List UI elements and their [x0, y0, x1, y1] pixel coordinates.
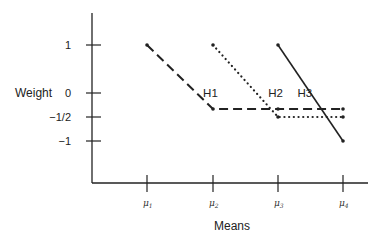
data-point: [145, 43, 149, 47]
data-point: [341, 139, 345, 143]
series-lines: [145, 43, 345, 143]
data-point: [341, 115, 345, 119]
axes: [92, 13, 368, 183]
y-ticks: 10−1/2−1: [49, 39, 101, 147]
x-tick-label: μ3: [274, 198, 284, 209]
x-ticks: μ1μ2μ3μ4: [143, 175, 349, 209]
data-point: [211, 43, 215, 47]
series-label-h1: H1: [203, 87, 218, 99]
y-tick-label: −1/2: [49, 111, 71, 123]
data-point: [211, 107, 215, 111]
series-line-h1: [147, 45, 343, 109]
series-label-h3: H3: [298, 87, 313, 99]
data-point: [341, 107, 345, 111]
data-point: [276, 43, 280, 47]
y-tick-label: 1: [65, 39, 71, 51]
x-axis-label: Means: [214, 219, 250, 233]
y-axis-label: Weight: [15, 86, 53, 100]
x-tick-label: μ4: [339, 198, 349, 209]
x-tick-label: μ2: [209, 198, 219, 209]
series-label-h2: H2: [268, 87, 283, 99]
series-line-h2: [213, 45, 343, 117]
y-tick-label: 0: [65, 87, 71, 99]
x-tick-label: μ1: [143, 198, 153, 209]
contrast-weights-chart: 10−1/2−1 μ1μ2μ3μ4 H1H2H3 Weight Means: [0, 0, 379, 242]
y-tick-label: −1: [58, 135, 71, 147]
data-point: [276, 107, 280, 111]
data-point: [276, 115, 280, 119]
